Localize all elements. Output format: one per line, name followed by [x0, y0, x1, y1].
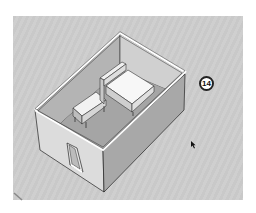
- viewport-corner-shadow: [14, 193, 22, 200]
- mouse-pointer-icon: [191, 141, 197, 149]
- room-model[interactable]: [0, 0, 256, 213]
- step-number-label: 14: [202, 80, 211, 88]
- step-number-badge: 14: [199, 76, 214, 91]
